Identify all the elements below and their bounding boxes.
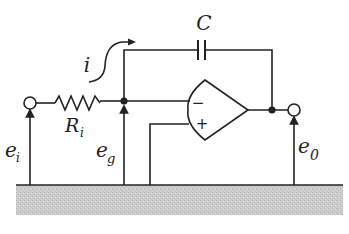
svg-text:g: g: [107, 151, 115, 166]
svg-text:R: R: [64, 114, 79, 136]
svg-text:e: e: [298, 134, 310, 158]
resistor-ri: [55, 96, 100, 110]
feedback-right-wire: [205, 50, 272, 110]
svg-text:i: i: [16, 151, 20, 165]
input-voltage-label: e i: [5, 138, 20, 165]
svg-text:0: 0: [310, 147, 319, 163]
node-voltage-label: e g: [96, 138, 115, 166]
inverting-input-sign: −: [192, 94, 205, 112]
resistor-label: R i: [64, 114, 84, 140]
output-node: [268, 106, 275, 113]
noninverting-to-ground-wire: [150, 124, 189, 185]
current-arrowhead: [128, 39, 136, 46]
op-amp-integrator-diagram: − + C i R i e i e g e 0: [0, 0, 349, 234]
output-terminal: [288, 104, 300, 116]
current-label: i: [84, 53, 90, 77]
feedback-left-wire: [124, 50, 198, 101]
noninverting-input-sign: +: [196, 115, 209, 133]
svg-text:i: i: [80, 126, 84, 140]
capacitor-label: C: [196, 11, 211, 35]
current-arrow: [89, 42, 132, 82]
ground-plane: [16, 185, 343, 215]
input-terminal: [24, 97, 36, 109]
output-voltage-label: e 0: [298, 134, 319, 163]
